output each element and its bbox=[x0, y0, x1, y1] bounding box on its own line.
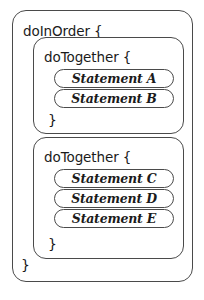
statement-label: Statement C bbox=[72, 172, 157, 185]
block-do-in-order[interactable]: doInOrder { doTogether { Statement A Sta… bbox=[12, 10, 193, 282]
do-in-order-closing-brace: } bbox=[21, 258, 30, 272]
do-together-1-closing-brace: } bbox=[48, 113, 57, 127]
statement-pill[interactable]: Statement B bbox=[54, 89, 174, 108]
do-in-order-header: doInOrder { bbox=[23, 24, 103, 38]
do-together-2-header: doTogether { bbox=[44, 150, 131, 164]
statement-label: Statement E bbox=[72, 212, 156, 225]
statement-label: Statement B bbox=[71, 92, 156, 105]
do-together-1-header: doTogether { bbox=[44, 50, 131, 64]
block-do-together-1[interactable]: doTogether { Statement A Statement B } bbox=[33, 37, 184, 134]
do-together-2-closing-brace: } bbox=[48, 237, 57, 251]
statement-pill[interactable]: Statement D bbox=[54, 189, 174, 208]
statement-label: Statement A bbox=[72, 72, 157, 85]
statement-label: Statement D bbox=[71, 192, 157, 205]
block-do-together-2[interactable]: doTogether { Statement C Statement D Sta… bbox=[33, 137, 184, 259]
statement-pill[interactable]: Statement E bbox=[54, 209, 174, 228]
diagram-canvas: doInOrder { doTogether { Statement A Sta… bbox=[0, 0, 204, 300]
statement-pill[interactable]: Statement A bbox=[54, 69, 174, 88]
statement-pill[interactable]: Statement C bbox=[54, 169, 174, 188]
